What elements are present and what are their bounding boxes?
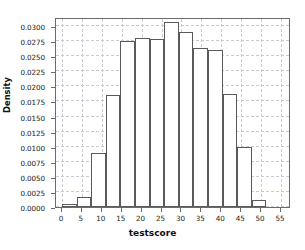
x-axis-tick-label: 5 [79,214,84,223]
x-axis-tick-label: 40 [216,214,225,223]
y-axis-title: Density [2,77,12,113]
plot-inner [56,19,289,207]
x-axis-tick [240,208,241,212]
histogram-bar [223,94,238,207]
x-axis-tick-label: 20 [136,214,145,223]
y-axis-tick-label: 0.0000 [20,204,45,213]
histogram-bar [164,22,179,207]
y-axis-tick-label: 0.0250 [20,53,45,62]
x-axis-tick [161,208,162,212]
x-axis-tick [180,208,181,212]
x-axis-tick-label: 45 [236,214,245,223]
gridline-vertical [281,19,282,207]
histogram-bar [62,204,77,207]
x-axis-tick-label: 15 [116,214,125,223]
histogram-bar [193,48,208,207]
y-axis-tick-label: 0.0300 [20,23,45,32]
gridline-vertical [82,19,83,207]
x-axis-tick [101,208,102,212]
gridline-vertical [62,19,63,207]
y-axis-tick-label: 0.0200 [20,83,45,92]
histogram-bar [91,153,106,207]
y-axis-tick-label: 0.0175 [20,98,45,107]
histogram-bar [237,147,252,207]
x-axis-title: testscore [0,228,305,238]
x-axis-tick-label: 30 [176,214,185,223]
x-axis: 0510152025303540455055 [55,208,290,216]
histogram-bar [106,95,121,207]
y-axis-tick-label: 0.0025 [20,188,45,197]
x-axis-tick-label: 50 [256,214,265,223]
gridline-vertical [261,19,262,207]
x-axis-tick-label: 10 [96,214,105,223]
x-axis-tick [280,208,281,212]
x-axis-tick [260,208,261,212]
y-axis-tick-label: 0.0125 [20,128,45,137]
y-axis-tick-label: 0.0150 [20,113,45,122]
x-axis-tick-label: 0 [59,214,64,223]
histogram-bar [150,39,165,207]
x-axis-tick-label: 25 [156,214,165,223]
y-axis-tick-label: 0.0275 [20,38,45,47]
histogram-figure: Density 0.00000.00250.00500.00750.01000.… [0,0,305,250]
y-axis: 0.00000.00250.00500.00750.01000.01250.01… [48,18,55,208]
x-axis-tick [220,208,221,212]
x-axis-tick [121,208,122,212]
x-axis-tick-label: 35 [196,214,205,223]
x-axis-tick [61,208,62,212]
y-axis-tick-label: 0.0100 [20,143,45,152]
y-axis-tick-label: 0.0225 [20,68,45,77]
plot-area [55,18,290,208]
x-axis-tick-label: 55 [275,214,284,223]
x-axis-tick [81,208,82,212]
histogram-bar [252,200,267,207]
histogram-bar [120,41,135,207]
x-axis-tick [141,208,142,212]
y-axis-tick-label: 0.0075 [20,158,45,167]
y-axis-tick-label: 0.0050 [20,173,45,182]
histogram-bar [77,197,92,207]
histogram-bar [179,32,194,207]
x-axis-tick [200,208,201,212]
histogram-bar [208,50,223,207]
histogram-bar [135,38,150,207]
